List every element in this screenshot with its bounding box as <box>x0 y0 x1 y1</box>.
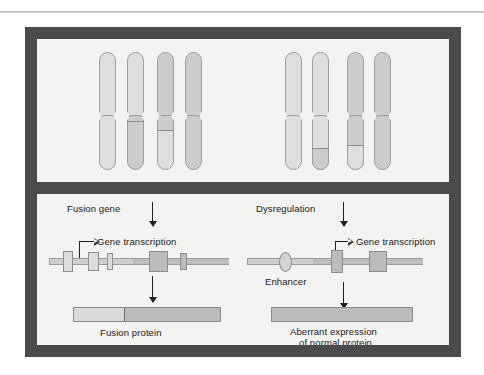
figure-root: Fusion gene Gene transcription <box>0 0 484 375</box>
enhancer-label: Enhancer <box>265 276 306 287</box>
chromosome-arm-upper <box>185 52 202 118</box>
chromosome-arm-upper <box>312 52 329 118</box>
translocation-breakpoint <box>347 145 364 146</box>
chromosome-band-dark <box>312 148 329 170</box>
chromosome-panel <box>37 39 449 182</box>
exon-box <box>63 251 73 272</box>
aberrant-protein-caption-line1: Aberrant expression <box>290 326 377 337</box>
chromosome-4-normal <box>185 52 202 170</box>
normal-protein-bar <box>271 307 413 322</box>
chromosome-arm-upper <box>347 52 364 118</box>
exon-box <box>369 251 387 272</box>
exon-box <box>331 250 343 273</box>
chromosome-1-normal <box>99 52 116 170</box>
centromere <box>284 112 303 120</box>
chromosome-arm-lower <box>374 115 391 170</box>
centromere <box>311 112 330 120</box>
protein-segment <box>272 308 412 321</box>
chromosome-arm-upper <box>127 52 144 118</box>
exon-box <box>149 251 168 272</box>
translocation-breakpoint <box>312 148 329 149</box>
chromosome-7-derivative <box>347 52 364 170</box>
chromosome-2-derivative <box>127 52 144 170</box>
centromere <box>98 112 117 120</box>
enhancer-element <box>279 252 292 272</box>
chromosome-6-derivative <box>312 52 329 170</box>
chromosome-3-derivative <box>157 52 174 170</box>
centromere <box>346 112 365 120</box>
fusion-protein-caption: Fusion protein <box>100 327 162 338</box>
centromere <box>373 112 392 120</box>
protein-segment-partner-b <box>124 308 220 321</box>
chromosome-5-normal <box>285 52 302 170</box>
centromere <box>126 112 145 120</box>
chromosome-arm-upper <box>157 52 174 118</box>
translocation-breakpoint <box>127 121 144 122</box>
dysregulation-down-arrow <box>339 202 348 228</box>
exon-box <box>107 253 113 270</box>
centromere <box>184 112 203 120</box>
chromosome-arm-upper <box>374 52 391 118</box>
chromosome-arm-upper <box>99 52 116 118</box>
translation-down-arrow-left <box>148 276 157 304</box>
centromere <box>156 112 175 120</box>
protein-segment-partner-a <box>74 308 124 321</box>
translation-down-arrow-right <box>339 282 348 310</box>
fusion-gene-column: Fusion gene Gene transcription <box>37 194 243 345</box>
chromosome-8-normal <box>374 52 391 170</box>
aberrant-protein-caption-line2: of normal protein <box>299 337 372 345</box>
figure-frame: Fusion gene Gene transcription <box>25 27 461 357</box>
chromosome-arm-upper <box>285 52 302 118</box>
fusion-gene-down-arrow <box>148 202 157 228</box>
mechanism-panel: Fusion gene Gene transcription <box>37 194 449 345</box>
page-rule-shadow <box>0 12 484 13</box>
exon-box <box>88 252 99 271</box>
chromosome-band-light <box>347 145 364 170</box>
panel-divider <box>37 182 449 194</box>
chromosome-arm-lower <box>185 115 202 170</box>
exon-box <box>180 253 187 270</box>
fusion-gene-heading: Fusion gene <box>67 203 120 214</box>
fusion-protein-bar <box>73 307 221 322</box>
chromosome-arm-lower <box>99 115 116 170</box>
dysregulation-heading: Dysregulation <box>256 203 315 214</box>
translocation-breakpoint <box>157 130 174 131</box>
gene-coding-segment <box>313 258 423 265</box>
chromosome-arm-lower <box>127 115 144 170</box>
chromosome-arm-lower <box>285 115 302 170</box>
dysregulation-column: Dysregulation Gene transcription <box>243 194 449 345</box>
